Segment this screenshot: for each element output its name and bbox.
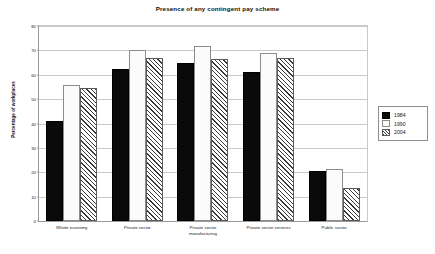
bar-group-bars: [105, 26, 171, 221]
black-dotted-swatch-icon: [382, 112, 390, 119]
bar: [260, 53, 277, 221]
x-axis-category-label: Private sector services: [231, 225, 307, 231]
bar: [177, 63, 194, 221]
legend-item: 1990: [382, 120, 424, 127]
bar-group-bars: [236, 26, 302, 221]
bar-group: Private sector: [105, 26, 171, 221]
legend-item-label: 1990: [394, 121, 406, 127]
bar: [80, 88, 97, 221]
white-dotted-swatch-icon: [382, 120, 390, 127]
x-axis-category-label: Whole economy: [34, 225, 110, 231]
bar: [129, 50, 146, 221]
bar-group-bars: [39, 26, 105, 221]
bar: [63, 85, 80, 222]
y-tick-label: 20: [31, 170, 36, 175]
y-tick-label: 50: [31, 97, 36, 102]
bar: [112, 69, 129, 221]
chart-title: Presence of any contingent pay scheme: [0, 5, 435, 12]
bar: [194, 46, 211, 222]
bar: [211, 59, 228, 221]
plot-area: 01020304050607080 Whole economyPrivate s…: [38, 25, 368, 222]
x-axis-category-label: Private sector manufacturing: [165, 225, 241, 236]
bar-group: Public sector: [301, 26, 367, 221]
y-axis-title: Percentage of workplaces: [11, 60, 16, 160]
x-axis-category-label: Public sector: [296, 225, 372, 231]
checkered-swatch-icon: [382, 129, 390, 136]
bar: [46, 121, 63, 221]
bar-group-bars: [170, 26, 236, 221]
bar: [343, 188, 360, 221]
bar: [277, 58, 294, 221]
y-tick-label: 10: [31, 194, 36, 199]
bar-group: Private sector services: [236, 26, 302, 221]
y-tick-label: 40: [31, 121, 36, 126]
x-axis-category-label: Private sector: [99, 225, 175, 231]
bar-group: Whole economy: [39, 26, 105, 221]
legend-item: 2004: [382, 129, 424, 136]
y-tick-label: 0: [34, 219, 36, 224]
legend-item-label: 1984: [394, 112, 406, 118]
legend-item: 1984: [382, 112, 424, 119]
y-tick-label: 70: [31, 48, 36, 53]
y-tick-label: 60: [31, 72, 36, 77]
bar: [146, 58, 163, 221]
bar-group-bars: [301, 26, 367, 221]
bar: [309, 171, 326, 221]
bar: [243, 72, 260, 221]
legend: 1984 1990 2004: [378, 106, 428, 141]
bar: [326, 169, 343, 221]
y-tick-label: 30: [31, 145, 36, 150]
y-tick-label: 80: [31, 24, 36, 29]
bar-chart: Presence of any contingent pay scheme Pe…: [0, 0, 435, 254]
bar-group: Private sector manufacturing: [170, 26, 236, 221]
legend-item-label: 2004: [394, 129, 406, 135]
